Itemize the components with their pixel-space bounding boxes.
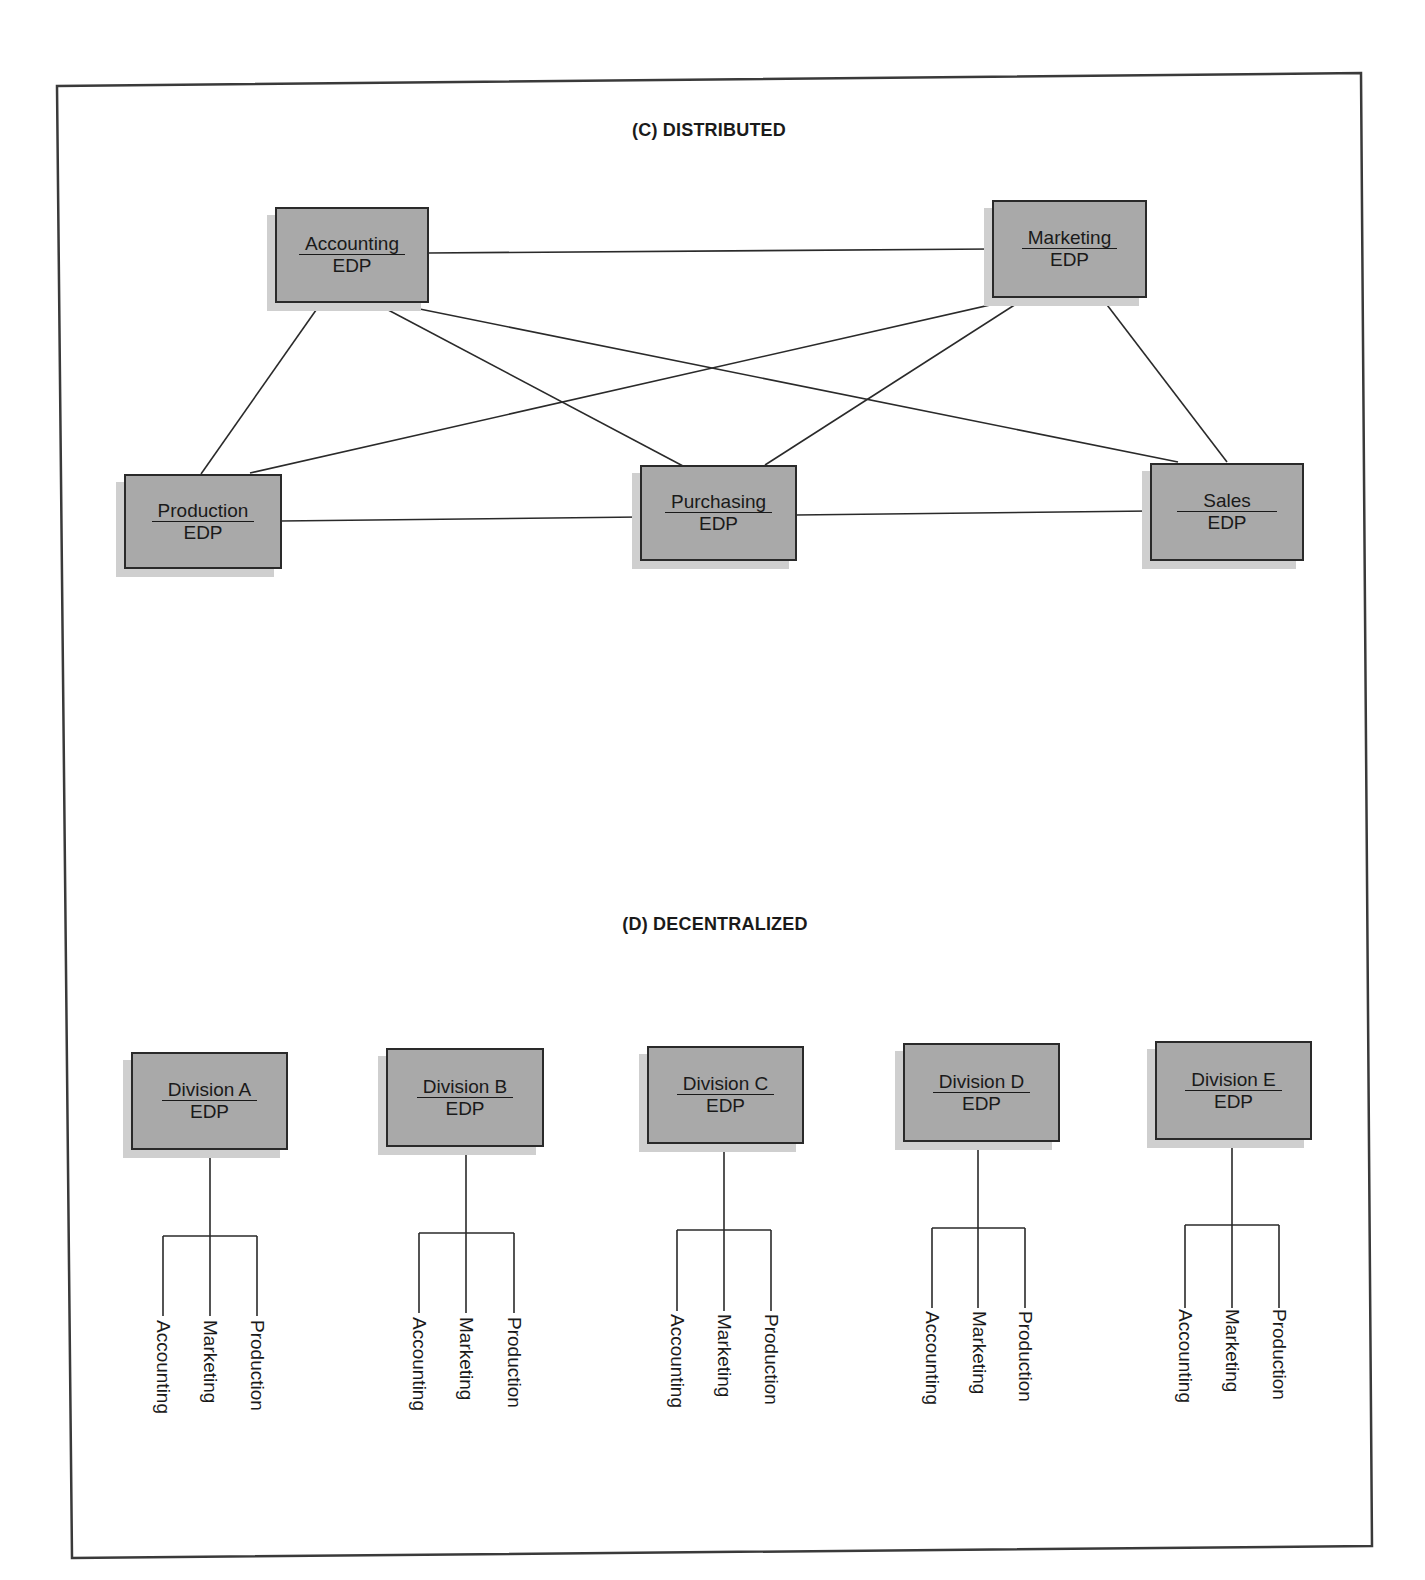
node-name: Division A — [162, 1079, 257, 1101]
leaf-division-b-production: Production — [503, 1317, 525, 1408]
node-name: Division E — [1185, 1069, 1281, 1091]
node-name: Division C — [677, 1073, 775, 1095]
leaf-division-c-marketing: Marketing — [713, 1314, 735, 1397]
leaf-division-e-accounting: Accounting — [1174, 1309, 1196, 1403]
tree-division-b — [419, 1146, 514, 1313]
node-sales-edp: Sales EDP — [1150, 463, 1304, 561]
tree-division-a — [163, 1149, 257, 1316]
edge-production-purchasing — [281, 517, 640, 521]
edge-marketing-sales — [1101, 297, 1227, 462]
node-division-c-edp: Division C EDP — [647, 1046, 804, 1144]
node-sub: EDP — [332, 255, 371, 277]
node-division-a-edp: Division A EDP — [131, 1052, 288, 1150]
edge-accounting-marketing — [428, 249, 992, 253]
edge-purchasing-sales — [796, 511, 1150, 515]
tree-division-d — [932, 1141, 1025, 1308]
node-production-edp: Production EDP — [124, 474, 282, 569]
leaf-division-a-production: Production — [246, 1320, 268, 1411]
edge-accounting-production — [201, 303, 321, 474]
decentralized-trees — [163, 1139, 1279, 1316]
node-sub: EDP — [699, 513, 738, 535]
node-sub: EDP — [962, 1093, 1001, 1115]
leaf-division-e-production: Production — [1268, 1309, 1290, 1400]
node-sub: EDP — [183, 522, 222, 544]
node-purchasing-edp: Purchasing EDP — [640, 465, 797, 561]
node-name: Sales — [1177, 490, 1277, 512]
node-division-e-edp: Division E EDP — [1155, 1041, 1312, 1140]
leaf-division-a-accounting: Accounting — [152, 1320, 174, 1414]
edge-accounting-sales — [390, 303, 1178, 462]
node-name: Accounting — [299, 233, 405, 255]
node-division-d-edp: Division D EDP — [903, 1043, 1060, 1142]
node-sub: EDP — [1207, 512, 1246, 534]
edge-marketing-purchasing — [765, 297, 1027, 465]
node-marketing-edp: Marketing EDP — [992, 200, 1147, 298]
node-sub: EDP — [1050, 249, 1089, 271]
node-sub: EDP — [1214, 1091, 1253, 1113]
leaf-division-c-production: Production — [760, 1314, 782, 1405]
node-name: Division D — [933, 1071, 1031, 1093]
leaf-division-a-marketing: Marketing — [199, 1320, 221, 1403]
tree-division-c — [677, 1143, 771, 1311]
node-name: Division B — [417, 1076, 513, 1098]
leaf-division-d-accounting: Accounting — [921, 1311, 943, 1405]
decentralized-title: (D) DECENTRALIZED — [622, 914, 807, 935]
leaf-division-b-marketing: Marketing — [455, 1317, 477, 1400]
node-name: Marketing — [1022, 227, 1117, 249]
node-sub: EDP — [445, 1098, 484, 1120]
tree-division-e — [1185, 1139, 1279, 1308]
leaf-division-d-marketing: Marketing — [968, 1311, 990, 1394]
edge-marketing-production — [250, 297, 1025, 473]
distributed-title: (C) DISTRIBUTED — [632, 120, 786, 141]
node-name: Purchasing — [665, 491, 772, 513]
leaf-division-d-production: Production — [1014, 1311, 1036, 1402]
node-sub: EDP — [706, 1095, 745, 1117]
node-division-b-edp: Division B EDP — [386, 1048, 544, 1147]
node-name: Production — [152, 500, 255, 522]
leaf-division-c-accounting: Accounting — [666, 1314, 688, 1408]
leaf-division-e-marketing: Marketing — [1221, 1309, 1243, 1392]
leaf-division-b-accounting: Accounting — [408, 1317, 430, 1411]
node-accounting-edp: Accounting EDP — [275, 207, 429, 303]
node-sub: EDP — [190, 1101, 229, 1123]
